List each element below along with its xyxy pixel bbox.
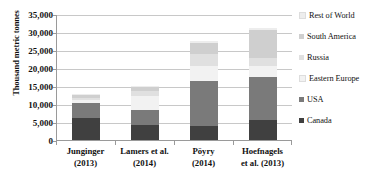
bar-segment[interactable] [249, 120, 277, 140]
bar-group[interactable] [249, 28, 277, 140]
x-axis-label-line: Pöyry [174, 146, 233, 158]
gridline [56, 15, 292, 16]
y-tick-label: 35,000 [3, 10, 53, 20]
bar-segment[interactable] [131, 110, 159, 124]
legend-label: Russia [307, 53, 329, 62]
legend-swatch-icon [299, 118, 304, 123]
x-tick-mark [233, 141, 234, 145]
bar-segment[interactable] [131, 125, 159, 140]
bar-group[interactable] [190, 41, 218, 140]
legend-swatch-icon [299, 55, 304, 60]
x-axis-label: Hoefnagelset al. (2013) [233, 146, 292, 169]
bar-segment[interactable] [190, 43, 218, 54]
bar-segment[interactable] [190, 126, 218, 140]
x-tick-mark [174, 141, 175, 145]
legend-item[interactable]: Rest of World [299, 10, 355, 20]
x-axis-labels: Junginger(2013)Lamers et al.(2014)Pöyry(… [56, 146, 292, 180]
bar-segment[interactable] [72, 103, 100, 118]
legend-label: South America [307, 32, 356, 41]
plot-area [56, 15, 292, 141]
bar-segment[interactable] [190, 54, 218, 66]
bar-segment[interactable] [249, 77, 277, 120]
legend-swatch-icon [299, 34, 304, 39]
x-axis-label-line: (2014) [174, 158, 233, 170]
x-axis-label: Lamers et al.(2014) [115, 146, 174, 169]
legend-label: Rest of World [309, 11, 355, 20]
legend-label: Canada [307, 116, 332, 125]
chart-legend: Rest of WorldSouth AmericaRussiaEastern … [299, 10, 382, 138]
x-axis-label-line: Hoefnagels [233, 146, 292, 158]
y-tick-label: 15,000 [3, 82, 53, 92]
y-tick-label: 5,000 [3, 118, 53, 128]
x-axis-label: Junginger(2013) [56, 146, 115, 169]
bar-group[interactable] [72, 94, 100, 140]
x-axis-label: Pöyry(2014) [174, 146, 233, 169]
legend-swatch-icon [299, 75, 306, 82]
y-tick-label: 25,000 [3, 46, 53, 56]
x-tick-mark [291, 141, 292, 145]
y-tick-label: 20,000 [3, 64, 53, 74]
legend-swatch-icon [299, 12, 306, 19]
legend-swatch-icon [299, 97, 304, 102]
bar-segment[interactable] [249, 30, 277, 57]
y-tick-label: 0 [3, 136, 53, 146]
bar-segment[interactable] [131, 96, 159, 110]
x-axis-label-line: Junginger [56, 146, 115, 158]
legend-item[interactable]: USA [299, 94, 323, 104]
y-axis-line [56, 15, 57, 142]
bar-segment[interactable] [249, 66, 277, 78]
legend-label: USA [307, 95, 323, 104]
bar-segment[interactable] [190, 66, 218, 81]
legend-item[interactable]: Eastern Europe [299, 73, 359, 83]
legend-label: Eastern Europe [309, 74, 359, 83]
y-axis-tick-labels: 35,00030,00025,00020,00015,00010,0005,00… [0, 15, 53, 141]
bar-segment[interactable] [190, 81, 218, 126]
x-axis-label-line: et al. (2013) [233, 158, 292, 170]
x-tick-mark [56, 141, 57, 145]
stacked-bar-chart: Thousand metric tonnes 35,00030,00025,00… [0, 0, 382, 182]
x-tick-mark [115, 141, 116, 145]
legend-item[interactable]: Russia [299, 52, 329, 62]
bar-group[interactable] [131, 86, 159, 140]
bar-segment[interactable] [72, 118, 100, 140]
y-tick-label: 30,000 [3, 28, 53, 38]
bar-segment[interactable] [249, 58, 277, 66]
x-axis-label-line: (2013) [56, 158, 115, 170]
x-axis-label-line: (2014) [115, 158, 174, 170]
x-axis-label-line: Lamers et al. [115, 146, 174, 158]
legend-item[interactable]: Canada [299, 115, 332, 125]
x-axis-ticks [56, 141, 292, 145]
legend-item[interactable]: South America [299, 31, 356, 41]
y-tick-label: 10,000 [3, 100, 53, 110]
